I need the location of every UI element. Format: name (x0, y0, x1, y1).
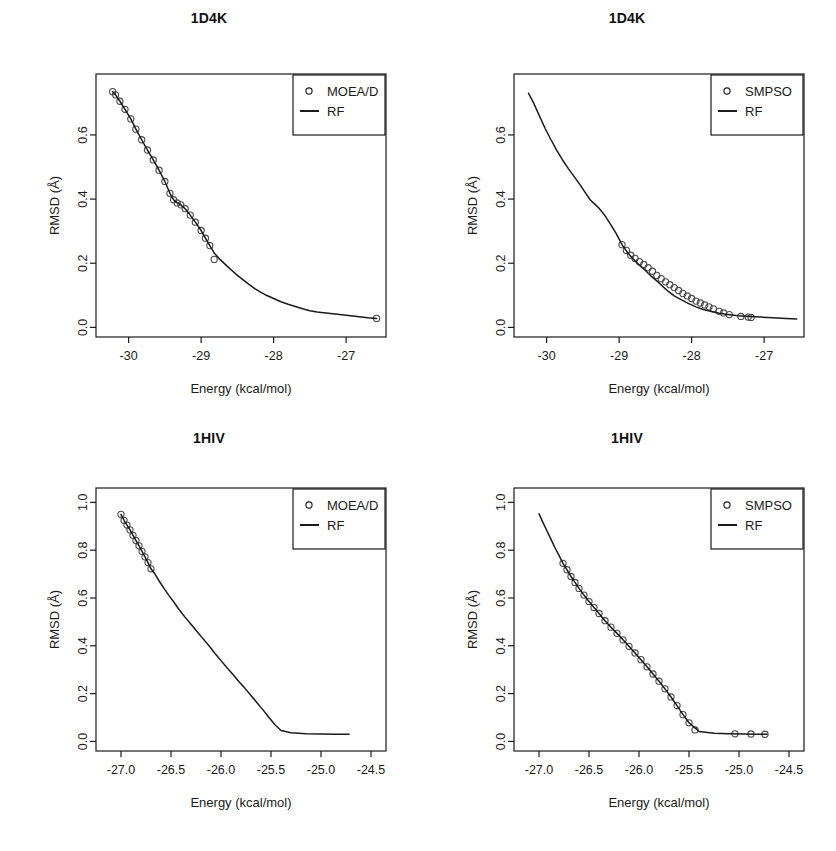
x-tick-label: -26.0 (207, 763, 236, 777)
legend-label: RF (745, 518, 762, 533)
y-tick-label: 0.0 (494, 733, 508, 750)
x-tick-label: -26.5 (575, 763, 604, 777)
y-tick-label: 0.8 (76, 541, 90, 558)
x-tick-label: -24.5 (357, 763, 386, 777)
legend-label: SMPSO (745, 84, 792, 99)
legend-label: RF (745, 104, 762, 119)
legend-label: RF (327, 104, 344, 119)
y-axis-title: RMSD (Å) (47, 590, 62, 649)
x-tick-label: -28 (683, 349, 701, 363)
x-tick-label: -28 (265, 349, 283, 363)
x-axis-title: Energy (kcal/mol) (608, 381, 709, 396)
y-tick-label: 0.2 (494, 685, 508, 702)
legend: SMPSORF (711, 75, 803, 135)
y-tick-label: 0.4 (494, 190, 508, 207)
y-tick-label: 0.4 (494, 637, 508, 654)
x-tick-label: -25.5 (675, 763, 704, 777)
legend-label: MOEA/D (327, 84, 378, 99)
x-tick-label: -29 (610, 349, 628, 363)
legend-label: MOEA/D (327, 498, 378, 513)
panel-bottom-left: 1HIV -27.0-26.5-26.0-25.5-25.0-24.50.00.… (0, 430, 418, 851)
data-point (658, 276, 664, 282)
y-tick-label: 1.0 (76, 494, 90, 511)
y-tick-label: 0.0 (76, 319, 90, 336)
data-point (654, 272, 660, 278)
x-tick-label: -25.0 (307, 763, 336, 777)
y-tick-label: 0.0 (494, 319, 508, 336)
y-tick-label: 0.6 (494, 126, 508, 143)
x-tick-label: -30 (538, 349, 556, 363)
x-tick-label: -27 (337, 349, 355, 363)
legend-label: SMPSO (745, 498, 792, 513)
series-markers-SMPSO (560, 560, 768, 737)
plot-area-bottom-left: -27.0-26.5-26.0-25.5-25.0-24.50.00.20.40… (0, 430, 418, 851)
legend-label: RF (327, 518, 344, 533)
panel-top-left: 1D4K -30-29-28-270.00.20.40.6Energy (kca… (0, 10, 418, 426)
x-tick-label: -29 (192, 349, 210, 363)
panel-bottom-right: 1HIV -27.0-26.5-26.0-25.5-25.0-24.50.00.… (418, 430, 836, 851)
y-tick-label: 0.4 (76, 637, 90, 654)
y-tick-label: 0.2 (494, 255, 508, 272)
x-tick-label: -27.0 (107, 763, 136, 777)
y-tick-label: 0.2 (76, 255, 90, 272)
plot-area-top-left: -30-29-28-270.00.20.40.6Energy (kcal/mol… (0, 10, 418, 426)
y-tick-label: 0.6 (76, 589, 90, 606)
y-axis-title: RMSD (Å) (47, 176, 62, 235)
x-axis-title: Energy (kcal/mol) (608, 795, 709, 810)
x-axis-title: Energy (kcal/mol) (190, 381, 291, 396)
x-tick-label: -27 (755, 349, 773, 363)
figure-canvas: 1D4K -30-29-28-270.00.20.40.6Energy (kca… (0, 0, 836, 851)
data-point (211, 256, 217, 262)
y-tick-label: 0.0 (76, 733, 90, 750)
x-tick-label: -25.5 (257, 763, 286, 777)
legend: MOEA/DRF (293, 75, 385, 135)
series-markers-SMPSO (619, 242, 754, 321)
y-tick-label: 0.2 (76, 685, 90, 702)
plot-area-bottom-right: -27.0-26.5-26.0-25.5-25.0-24.50.00.20.40… (418, 430, 836, 851)
x-tick-label: -25.0 (725, 763, 754, 777)
legend: MOEA/DRF (293, 489, 385, 549)
legend: SMPSORF (711, 489, 803, 549)
x-tick-label: -26.0 (625, 763, 654, 777)
plot-area-top-right: -30-29-28-270.00.20.40.6Energy (kcal/mol… (418, 10, 836, 426)
y-axis-title: RMSD (Å) (465, 590, 480, 649)
y-tick-label: 0.8 (494, 541, 508, 558)
x-tick-label: -30 (120, 349, 138, 363)
panel-top-right: 1D4K -30-29-28-270.00.20.40.6Energy (kca… (418, 10, 836, 426)
y-tick-label: 1.0 (494, 494, 508, 511)
y-tick-label: 0.6 (494, 589, 508, 606)
y-tick-label: 0.4 (76, 190, 90, 207)
x-tick-label: -24.5 (775, 763, 804, 777)
y-tick-label: 0.6 (76, 126, 90, 143)
y-axis-title: RMSD (Å) (465, 176, 480, 235)
x-tick-label: -26.5 (157, 763, 186, 777)
x-axis-title: Energy (kcal/mol) (190, 795, 291, 810)
x-tick-label: -27.0 (525, 763, 554, 777)
